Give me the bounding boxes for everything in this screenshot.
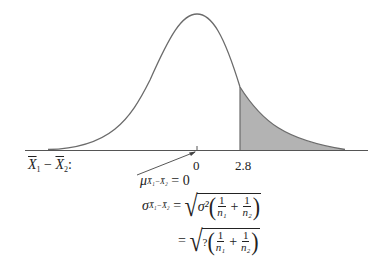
mean-subscript: X̄₁−X̄₂	[147, 177, 168, 186]
fraction-1-over-n1: 1n₁	[216, 230, 225, 253]
denominator: n₁	[216, 242, 225, 253]
mean-equation: μX̄₁−X̄₂ = 0	[140, 173, 190, 189]
sigma-squared: σ²	[198, 199, 209, 215]
sigma-equation: σX̄₁−X̄₂ = √ σ² ( 1n₁ + 1n₂ )	[142, 193, 261, 218]
equals-sign: =	[178, 233, 186, 249]
normal-curve	[48, 14, 345, 150]
mean-pointer-arrow	[137, 152, 195, 175]
x1-bar: X	[28, 157, 37, 172]
square-root: √ ? ( 1n₁ + 1n₂ )	[189, 228, 259, 253]
tick-label-2-8: 2.8	[235, 159, 251, 172]
radicand: ? ( 1n₁ + 1n₂ )	[202, 228, 260, 253]
fraction-1-over-n1: 1n₁	[217, 195, 226, 218]
minus-sign: −	[41, 157, 56, 172]
fraction-1-over-n2: 1n₂	[241, 230, 250, 253]
radical-icon: √	[185, 191, 198, 221]
radicand: σ² ( 1n₁ + 1n₂ )	[197, 193, 261, 218]
mean-value: = 0	[171, 173, 189, 189]
mu-symbol: μ	[140, 173, 147, 189]
fraction-1-over-n2: 1n₂	[242, 195, 251, 218]
radical-icon: √	[189, 226, 202, 256]
right-paren: )	[251, 229, 258, 253]
sigma-equation-line2: = √ ? ( 1n₁ + 1n₂ )	[178, 228, 260, 253]
plus-sign: +	[230, 199, 238, 215]
left-paren: (	[207, 229, 214, 253]
axis-label: X1 − X2:	[28, 158, 72, 174]
square-root: √ σ² ( 1n₁ + 1n₂ )	[185, 193, 262, 218]
arrowhead-icon	[189, 152, 196, 157]
plus-sign: +	[229, 234, 237, 250]
sigma-subscript: X̄₁−X̄₂	[149, 201, 170, 210]
denominator: n₂	[242, 207, 251, 218]
colon: :	[68, 157, 72, 172]
denominator: n₁	[217, 207, 226, 218]
tick-label-zero: 0	[193, 159, 200, 172]
right-paren: )	[253, 194, 260, 218]
sigma-symbol: σ	[142, 198, 149, 214]
x2-bar: X	[55, 157, 64, 172]
left-paren: (	[209, 194, 216, 218]
equals-sign: =	[173, 198, 181, 214]
shaded-tail-region	[240, 87, 345, 150]
denominator: n₂	[241, 242, 250, 253]
